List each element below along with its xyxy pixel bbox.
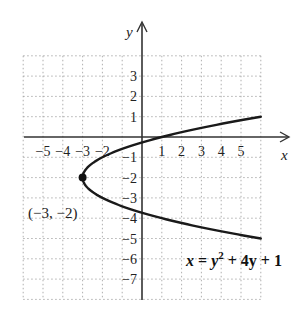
y-tick-label: −4 (122, 211, 137, 226)
y-tick-label: 3 (130, 69, 137, 84)
equation-label: x = y2 + 4y + 1 (185, 249, 282, 270)
y-tick-label: −3 (122, 191, 137, 206)
x-tick-label: −4 (55, 144, 70, 159)
x-tick-label: 1 (158, 144, 165, 159)
y-tick-label: −5 (122, 232, 137, 247)
x-axis-label: x (280, 147, 288, 163)
y-tick-label: 2 (130, 89, 137, 104)
parabola-graph: −5−4−3−212345321−1−2−3−4−5−6−7 x y (−3, … (0, 0, 305, 319)
x-tick-label: −3 (75, 144, 90, 159)
x-tick-label: 4 (218, 144, 225, 159)
x-tick-label: 3 (198, 144, 205, 159)
y-tick-label: −1 (122, 150, 137, 165)
y-tick-label: −2 (122, 171, 137, 186)
vertex-point (79, 174, 87, 182)
y-tick-label: −6 (122, 252, 137, 267)
vertex-label: (−3, −2) (28, 205, 77, 222)
x-tick-label: 2 (178, 144, 185, 159)
y-axis-label: y (124, 24, 133, 40)
x-tick-label: −5 (36, 144, 51, 159)
x-tick-label: 5 (238, 144, 245, 159)
y-tick-label: −7 (122, 272, 137, 287)
y-tick-label: 1 (130, 110, 137, 125)
